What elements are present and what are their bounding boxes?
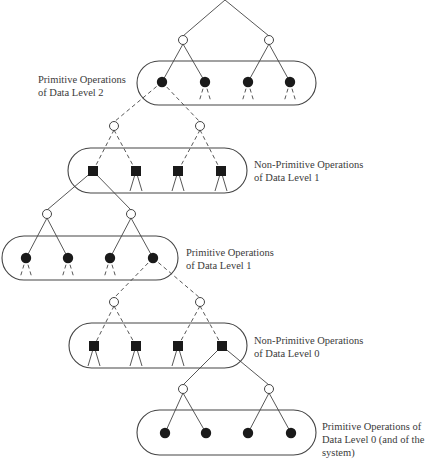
non-primitive-square-node-icon — [217, 341, 227, 351]
primitive-dot-node-icon — [157, 77, 167, 87]
open-circle-node-icon — [265, 385, 274, 394]
edge-primitive-dl2-parent-to-node — [248, 44, 269, 82]
label-primitive-dl2: Primitive Operations of Data Level 2 — [38, 73, 126, 99]
edge-apex-to-parent-1 — [225, 0, 269, 36]
non-primitive-square-node-icon — [173, 166, 183, 176]
edge-apex-to-parent-0 — [183, 0, 225, 36]
non-primitive-square-node-icon — [89, 341, 99, 351]
primitive-dot-node-icon — [285, 77, 295, 87]
edge-nonprimitive-dl0-parent-to-node — [94, 306, 114, 346]
open-circle-node-icon — [179, 36, 188, 45]
primitive-dot-node-icon — [286, 428, 296, 438]
label-nonprimitive-dl0: Non-Primitive Operations of Data Level 0 — [254, 334, 363, 360]
edge-nonprimitive-dl1-expansion — [93, 171, 131, 210]
label-primitive-dl1: Primitive Operations of Data Level 1 — [186, 246, 274, 272]
open-circle-node-icon — [196, 298, 205, 307]
label-nonprimitive-dl1: Non-Primitive Operations of Data Level 1 — [254, 158, 363, 184]
primitive-dot-node-icon — [200, 77, 210, 87]
edge-nonprimitive-dl0-parent-to-node — [178, 306, 200, 346]
open-circle-node-icon — [265, 36, 274, 45]
edge-primitive-dl2-parent-to-node — [162, 44, 183, 82]
edge-primitive-dl0-parent-to-node — [183, 393, 206, 433]
open-circle-node-icon — [196, 122, 205, 131]
edge-primitive-dl0-parent-to-node — [269, 393, 291, 433]
primitive-dot-node-icon — [21, 253, 31, 263]
non-primitive-square-node-icon — [88, 166, 98, 176]
primitive-dot-node-icon — [243, 77, 253, 87]
open-circle-node-icon — [110, 298, 119, 307]
edge-nonprimitive-dl1-parent-to-node — [114, 130, 136, 171]
open-circle-node-icon — [127, 210, 136, 219]
edge-nonprimitive-dl0-expansion — [183, 346, 222, 385]
edge-nonprimitive-dl1-parent-to-node — [93, 130, 114, 171]
primitive-dot-node-icon — [160, 428, 170, 438]
edge-primitive-dl2-parent-to-node — [269, 44, 290, 82]
edge-primitive-dl0-parent-to-node — [165, 393, 183, 433]
non-primitive-square-node-icon — [173, 341, 183, 351]
open-circle-node-icon — [43, 210, 52, 219]
open-circle-node-icon — [110, 122, 119, 131]
non-primitive-square-node-icon — [216, 166, 226, 176]
edge-nonprimitive-dl1-expansion — [47, 171, 93, 210]
edge-primitive-dl1-parent-to-node — [47, 218, 68, 258]
edge-primitive-dl1-parent-to-node — [110, 218, 131, 258]
primitive-dot-node-icon — [105, 253, 115, 263]
non-primitive-square-node-icon — [131, 341, 141, 351]
label-primitive-dl0: Primitive Operations of Data Level 0 (an… — [322, 420, 424, 459]
primitive-dot-node-icon — [201, 428, 211, 438]
edge-primitive-dl1-parent-to-node — [26, 218, 47, 258]
non-primitive-square-node-icon — [131, 166, 141, 176]
edge-primitive-dl2-parent-to-node — [183, 44, 205, 82]
primitive-dot-node-icon — [63, 253, 73, 263]
edge-primitive-dl0-parent-to-node — [248, 393, 269, 433]
primitive-dot-node-icon — [148, 253, 158, 263]
edge-nonprimitive-dl0-parent-to-node — [114, 306, 136, 346]
primitive-dot-node-icon — [243, 428, 253, 438]
operation-hierarchy-diagram — [0, 0, 430, 464]
edge-nonprimitive-dl1-parent-to-node — [200, 130, 221, 171]
edge-nonprimitive-dl0-parent-to-node — [200, 306, 222, 346]
edge-primitive-dl1-parent-to-node — [131, 218, 153, 258]
edge-primitive-dl2-expansion — [162, 82, 200, 122]
edge-nonprimitive-dl1-parent-to-node — [178, 130, 200, 171]
edge-primitive-dl1-expansion — [114, 258, 153, 298]
open-circle-node-icon — [179, 385, 188, 394]
